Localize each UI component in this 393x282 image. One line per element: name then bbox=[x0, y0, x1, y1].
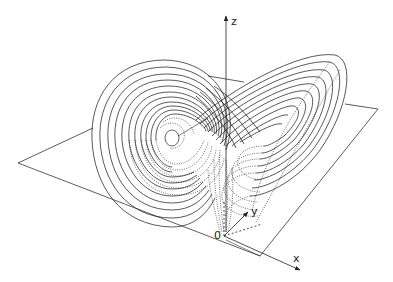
left-fixed-point-loop bbox=[165, 130, 179, 146]
z-axis-label: z bbox=[231, 16, 237, 27]
lorenz-attractor-diagram bbox=[0, 0, 393, 282]
right-lobe-dotted bbox=[222, 62, 340, 222]
left-lobe bbox=[92, 60, 230, 227]
origin-label: 0 bbox=[214, 230, 221, 241]
reference-plane bbox=[18, 76, 378, 256]
x-axis-label: x bbox=[293, 253, 300, 264]
x-axis bbox=[224, 236, 300, 270]
central-trajectories bbox=[208, 150, 233, 232]
y-axis-label: y bbox=[251, 206, 258, 217]
